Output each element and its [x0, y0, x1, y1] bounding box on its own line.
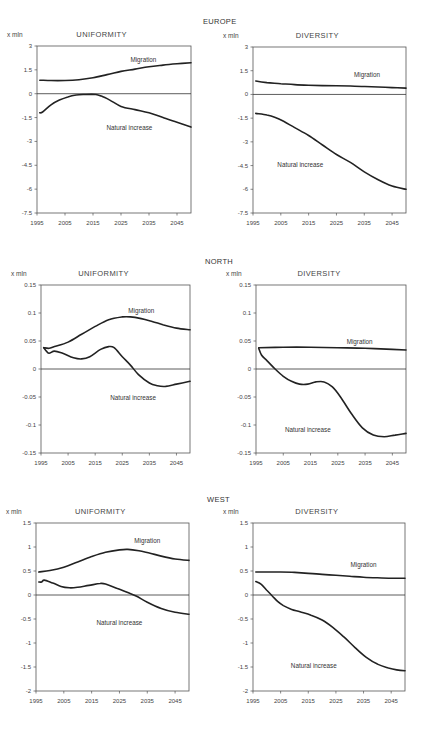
y-tick-label: 0.5 — [240, 568, 249, 574]
series-label: Natural increase — [291, 662, 337, 669]
y-tick-label: 1.5 — [240, 520, 249, 526]
x-tick-label: 2015 — [302, 698, 316, 704]
x-tick-label: 2025 — [329, 698, 343, 704]
y-tick-label: -1.5 — [238, 664, 249, 670]
chart-west-diversity: 1.510.50-0.5-1-1.5-219952005201520252035… — [0, 0, 429, 730]
chart-title: DIVERSITY — [295, 507, 338, 516]
series-label: Migration — [351, 561, 377, 569]
x-tick-label: 2005 — [274, 698, 288, 704]
y-axis-label: x mln — [223, 508, 239, 515]
y-tick-label: -2 — [243, 688, 249, 694]
y-tick-label: -1 — [243, 640, 249, 646]
series-line-migration — [256, 572, 405, 578]
y-tick-label: 0 — [245, 592, 249, 598]
y-tick-label: 1 — [245, 544, 249, 550]
x-tick-label: 2035 — [357, 698, 371, 704]
x-tick-label: 2045 — [385, 698, 399, 704]
y-tick-label: -0.5 — [238, 616, 249, 622]
x-tick-label: 1995 — [246, 698, 260, 704]
